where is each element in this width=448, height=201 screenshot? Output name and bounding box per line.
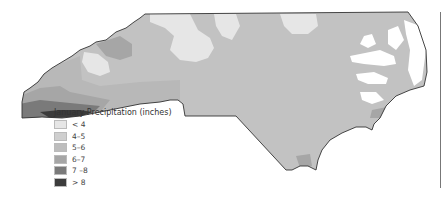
legend-title: January Precipitation (inches): [54, 108, 172, 117]
legend-label: 7 –8: [72, 166, 88, 175]
legend-swatch: [54, 178, 67, 187]
legend-item: 6–7: [54, 154, 172, 166]
legend-swatch: [54, 132, 67, 141]
legend-label: 4–5: [72, 132, 85, 141]
legend-item: 7 –8: [54, 165, 172, 177]
legend-label: < 4: [72, 120, 85, 129]
legend-item: 4–5: [54, 131, 172, 143]
legend-swatch: [54, 166, 67, 175]
legend-item: 5–6: [54, 142, 172, 154]
legend-swatch: [54, 143, 67, 152]
legend-item: < 4: [54, 119, 172, 131]
legend-item: > 8: [54, 177, 172, 189]
legend-label: > 8: [72, 178, 85, 187]
legend-label: 6–7: [72, 155, 85, 164]
legend: January Precipitation (inches) < 4 4–5 5…: [54, 108, 172, 188]
divider-line: [440, 12, 441, 188]
legend-swatch: [54, 120, 67, 129]
legend-swatch: [54, 155, 67, 164]
legend-label: 5–6: [72, 143, 85, 152]
